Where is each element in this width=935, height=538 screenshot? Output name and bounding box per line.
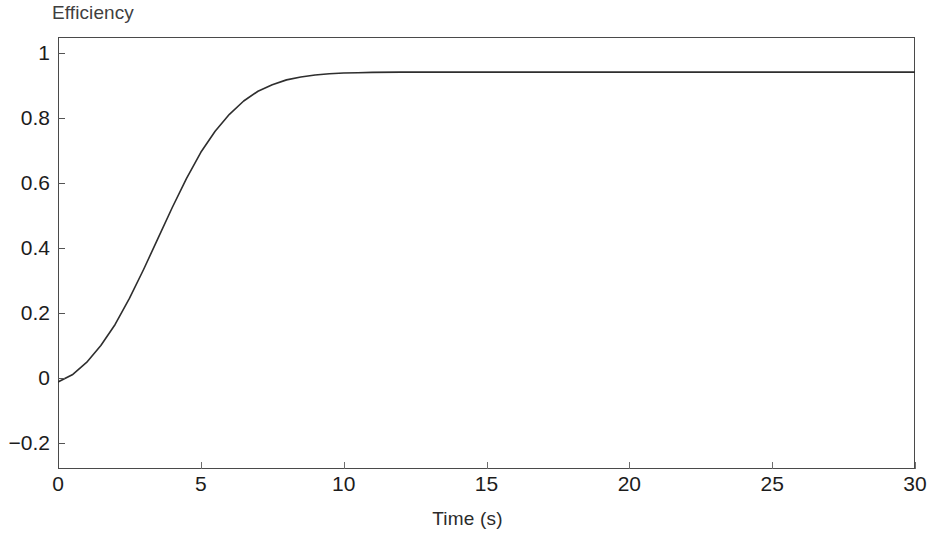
x-tick-label: 0 — [52, 473, 64, 494]
x-tick-mark — [915, 462, 916, 469]
y-tick-mark — [58, 378, 65, 379]
chart-figure: Efficiency 10.80.60.40.20−0.2 0510152025… — [0, 0, 935, 538]
x-tick-mark — [344, 462, 345, 469]
x-tick-label: 20 — [618, 473, 641, 494]
x-tick-mark — [487, 462, 488, 469]
x-tick-mark — [201, 462, 202, 469]
y-tick-mark — [58, 53, 65, 54]
x-tick-label: 25 — [760, 473, 783, 494]
y-tick-mark — [58, 248, 65, 249]
y-tick-mark — [58, 443, 65, 444]
x-tick-mark — [772, 462, 773, 469]
x-tick-label: 15 — [475, 473, 498, 494]
x-tick-label: 30 — [903, 473, 926, 494]
y-tick-mark — [58, 313, 65, 314]
x-tick-label: 5 — [195, 473, 207, 494]
x-tick-mark — [629, 462, 630, 469]
x-tick-label: 10 — [332, 473, 355, 494]
y-tick-mark — [58, 118, 65, 119]
y-tick-mark — [58, 183, 65, 184]
x-axis-label: Time (s) — [0, 508, 935, 530]
x-axis-tick-labels: 051015202530 — [0, 0, 935, 538]
